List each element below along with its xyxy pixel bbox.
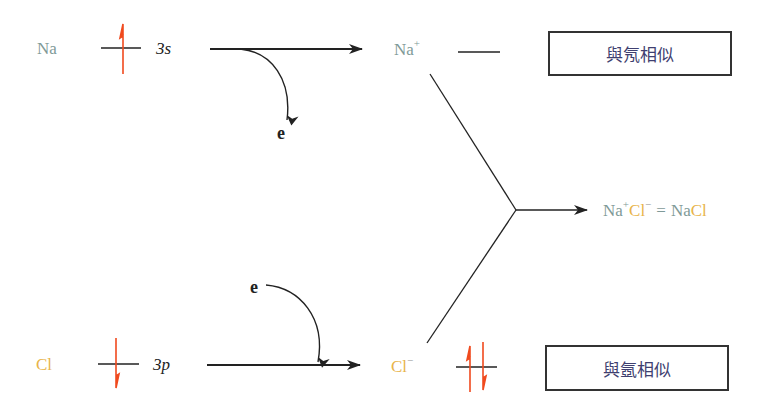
- cl-ion-charge: −: [407, 354, 413, 366]
- cl-orbital-label: 3p: [153, 356, 170, 373]
- product-cation-charge: +: [623, 198, 629, 210]
- na-3s-orbital: [101, 24, 141, 74]
- na-ion-to-junction: [430, 74, 516, 210]
- ionic-bond-diagram: Na 3s Na+ e 與氖相似 Na+Cl−=NaCl e Cl 3p Cl−…: [0, 0, 783, 416]
- cl-3p-orbital: [98, 338, 139, 388]
- formula-na: Na: [671, 201, 691, 220]
- electron-release-curve: [240, 49, 288, 120]
- product-cation: Na: [603, 201, 623, 220]
- equals-sign: =: [651, 201, 671, 220]
- formula-cl: Cl: [691, 201, 707, 220]
- cl-ion-to-junction: [427, 210, 516, 343]
- product-formula: Na+Cl−=NaCl: [603, 202, 707, 219]
- electron-capture-curve: [266, 285, 319, 362]
- na-electron-label: e: [277, 124, 285, 142]
- na-ion-charge: +: [414, 37, 420, 49]
- neon-similar-box: 與氖相似: [548, 31, 732, 76]
- argon-similar-box: 與氬相似: [545, 345, 729, 391]
- cl-electron-label: e: [250, 278, 258, 296]
- cl-ion-label: Cl−: [391, 358, 413, 375]
- na-atom-label: Na: [37, 40, 57, 57]
- na-ion-symbol: Na: [394, 40, 414, 59]
- cl-ion-filled-level: [456, 342, 497, 392]
- product-anion: Cl: [629, 201, 645, 220]
- product-anion-charge: −: [645, 198, 651, 210]
- cl-atom-label: Cl: [36, 356, 52, 373]
- na-ion-label: Na+: [394, 41, 420, 58]
- cl-ion-symbol: Cl: [391, 357, 407, 376]
- na-orbital-label: 3s: [156, 40, 171, 57]
